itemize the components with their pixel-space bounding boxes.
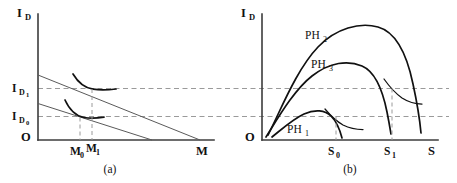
panel-a-ytick-id1-base: I xyxy=(12,82,17,94)
panel-a-ytick-id1: I D 1 xyxy=(12,82,29,98)
panel-a-xtick-m1-sub: 1 xyxy=(96,148,100,157)
curve-label-ph2-base: PH xyxy=(305,29,320,41)
panel-a-x-axis-label: M xyxy=(196,144,208,158)
budget-line-low xyxy=(38,104,152,141)
panel-a-ytick-id0: I D 0 xyxy=(12,110,29,126)
panel-b-xtick-s0-base: S xyxy=(328,145,334,157)
panel-b-y-axis-label-sub: D xyxy=(249,12,255,22)
curve-label-ph3-sub: 3 xyxy=(329,64,333,73)
panel-b-y-axis-label: I D xyxy=(241,6,255,22)
curve-label-ph3-base: PH xyxy=(311,58,326,70)
panel-b-y-axis-label-base: I xyxy=(241,6,246,20)
panel-a-y-axis-label: I D xyxy=(17,6,31,22)
budget-line-high xyxy=(38,75,200,140)
panel-a-origin-label: O xyxy=(21,130,31,144)
curve-label-ph1-sub: 1 xyxy=(305,129,309,138)
panel-b-origin-label: O xyxy=(245,130,255,144)
curve-label-ph2: PH 2 xyxy=(305,29,327,44)
panel-b-xtick-s0-sub: 0 xyxy=(336,151,340,160)
economics-diagram: I D I D 1 I D 0 O M 0 xyxy=(0,0,457,183)
panel-a-ytick-id1-sub: D xyxy=(19,88,25,97)
panel-a-ytick-id1-subsub: 1 xyxy=(26,91,29,98)
panel-a-caption: (a) xyxy=(104,163,117,176)
panel-a-y-axis-label-sub: D xyxy=(25,12,31,22)
panel-b-x-axis-label: S xyxy=(428,144,435,158)
supply-curve-0 xyxy=(325,109,363,130)
panel-b-caption: (b) xyxy=(343,163,357,176)
panel-a-ytick-id0-base: I xyxy=(12,110,17,122)
curve-label-ph3: PH 3 xyxy=(311,58,333,73)
panel-b-xtick-s1-base: S xyxy=(384,145,390,157)
panel-a-ytick-id0-subsub: 0 xyxy=(26,119,29,126)
panel-a-xtick-m1: M 1 xyxy=(86,142,100,157)
panel-a-xtick-m0: M 0 xyxy=(70,145,84,160)
indifference-curve-0 xyxy=(65,100,104,118)
panel-a-xtick-m0-sub: 0 xyxy=(80,151,84,160)
panel-a-y-axis-label-base: I xyxy=(17,6,22,20)
curve-label-ph2-sub: 2 xyxy=(323,35,327,44)
indifference-curve-1 xyxy=(73,74,116,90)
panel-b-xtick-s1-sub: 1 xyxy=(392,151,396,160)
figure-container: I D I D 1 I D 0 O M 0 xyxy=(0,0,457,183)
curve-ph2 xyxy=(268,25,421,135)
curve-label-ph1: PH 1 xyxy=(287,123,309,138)
curve-label-ph1-base: PH xyxy=(287,123,302,135)
panel-a: I D I D 1 I D 0 O M 0 xyxy=(12,6,214,176)
panel-b-xtick-s0: S 0 xyxy=(328,145,340,160)
panel-b: I D O PH 1 PH 2 PH 3 S 0 xyxy=(241,6,438,176)
panel-b-xtick-s1: S 1 xyxy=(384,145,396,160)
panel-a-ytick-id0-sub: D xyxy=(19,116,25,125)
